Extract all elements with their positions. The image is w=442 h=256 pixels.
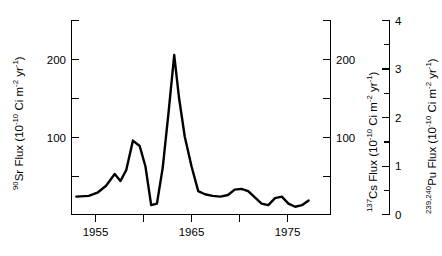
left-tick-label-100: 100 [47, 132, 66, 144]
pu-tick-label-2: 2 [395, 112, 401, 124]
cs-axis-title-exp3: -1 [365, 75, 374, 82]
pu-tick-label-4: 4 [395, 15, 402, 27]
x-tick-label-1965: 1965 [179, 226, 205, 238]
left-axis-title-suffix: ) [13, 56, 25, 60]
left-axis-title-mid2: yr [13, 67, 25, 80]
pu-axis-title-suffix: ) [426, 58, 438, 62]
left-axis-title-exp3: -1 [11, 60, 20, 67]
cs-axis-title-exp1: -10 [365, 128, 374, 140]
right-cs-axis-title: 137Cs Flux (10-10 Ci m-2 yr-1) [365, 71, 379, 212]
cs-axis-title-suffix: ) [367, 71, 379, 75]
pu-axis-title-exp3: -1 [424, 62, 433, 69]
left-axis-title-exp1: -10 [11, 113, 20, 125]
cs-axis-title-exp2: -2 [365, 95, 374, 102]
pu-tick-label-0: 0 [395, 209, 401, 221]
pu-axis-title-exp1: -10 [424, 115, 433, 127]
pu-tick-label-3: 3 [395, 63, 401, 75]
svg-text:137Cs Flux (10-10 Ci m-2 yr-1): 137Cs Flux (10-10 Ci m-2 yr-1) [365, 71, 379, 212]
cs-axis-title-mid2: yr [367, 82, 379, 95]
pu-axis-title-mid2: yr [426, 69, 438, 82]
left-axis-title-mid: Ci m [13, 87, 25, 114]
left-axis-title-exp2: -2 [11, 80, 20, 87]
x-tick-label-1955: 1955 [83, 226, 109, 238]
pu-axis-title-mass: 239,240 [424, 185, 433, 214]
cs-axis-title-mid: Ci m [367, 102, 379, 129]
cs-tick-label-200: 200 [336, 54, 355, 66]
pu-axis-title-mid: Ci m [426, 89, 438, 116]
x-tick-label-1975: 1975 [275, 226, 301, 238]
left-axis-title-main: Sr Flux (10 [13, 125, 25, 181]
cs-axis-title-main: Cs Flux (10 [367, 140, 379, 199]
chart-svg: 200 100 90Sr Flux (10-10 Ci m-2 yr-1) 19… [0, 0, 442, 256]
pu-axis-title-exp2: -2 [424, 82, 433, 89]
chart-figure: 200 100 90Sr Flux (10-10 Ci m-2 yr-1) 19… [0, 0, 442, 256]
cs-tick-label-100: 100 [336, 132, 355, 144]
pu-axis-title-main: Pu Flux (10 [426, 127, 438, 186]
cs-axis-title-mass: 137 [365, 199, 374, 212]
left-tick-label-200: 200 [47, 54, 66, 66]
pu-tick-label-1: 1 [395, 160, 401, 172]
